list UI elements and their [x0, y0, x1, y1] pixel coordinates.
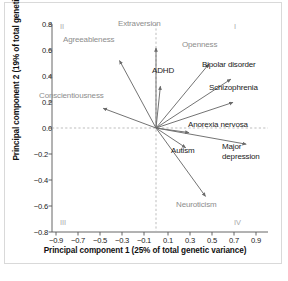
vector-label-bipolar-disorder: Bipolar disorder	[202, 60, 256, 70]
vector-label-neuroticism: Neuroticism	[176, 200, 217, 210]
y-axis-spine	[49, 24, 53, 232]
vector-label-major-depression: Major depression	[222, 142, 260, 161]
major-depression-line-2: depression	[222, 152, 260, 161]
vector-adhd	[156, 86, 160, 128]
vector-label-anorexia-nervosa: Anorexia nervosa	[188, 120, 248, 130]
vector-label-autism: Autism	[171, 146, 195, 156]
vector-label-agreeableness: Agreeableness	[63, 35, 114, 45]
pca-biplot: Principal component 2 (19% of total gene…	[0, 0, 288, 281]
vector-label-openness: Openness	[182, 40, 217, 50]
vector-label-conscientiousness: Conscientiousness	[39, 91, 104, 101]
x-axis-spine	[52, 232, 268, 236]
vector-conscientiousness	[103, 108, 156, 128]
vector-label-adhd: ADHD	[152, 66, 174, 76]
vector-neuroticism	[156, 128, 206, 196]
major-depression-line-1: Major	[222, 142, 241, 151]
vector-label-schizophrenia: Schizophrenia	[209, 83, 258, 93]
plot-canvas	[0, 0, 288, 281]
vector-agreeableness	[120, 61, 157, 129]
vector-label-extraversion: Extraversion	[118, 19, 161, 29]
